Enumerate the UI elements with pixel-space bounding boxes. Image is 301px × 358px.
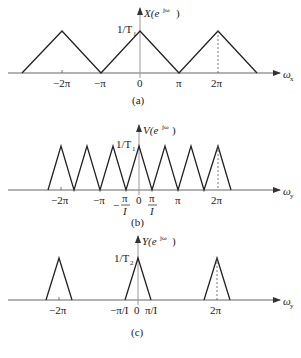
panel-c: Y(e jω ) 1/T 2 ω y −2π −π/I 0 π/I 2π (c) — [8, 234, 294, 339]
tick-label: 2π — [211, 77, 223, 89]
panel-b: V(e jω ) 1/T 1 ω y −2π −π − π I 0 π I π … — [8, 123, 294, 229]
tick-label-minus-pi-over-I: − π I — [113, 192, 130, 217]
svg-text:): ) — [172, 124, 176, 137]
svg-text:π: π — [122, 192, 128, 204]
tick-label: −π/I 0 π/I — [110, 304, 158, 316]
svg-text:x: x — [290, 75, 294, 83]
tick-label: −2π — [53, 77, 71, 89]
x-axis-label: ω y — [283, 295, 294, 310]
svg-text:y: y — [290, 192, 294, 200]
sampling-rate-spectra-diagram: X(e jω ) 1/T 1 ω x −2π −π 0 π 2π (a) V(e… — [0, 0, 301, 358]
svg-text:X(e: X(e — [143, 7, 159, 20]
tick-label: 0 — [136, 194, 142, 206]
svg-text:Y(e: Y(e — [142, 235, 157, 248]
y-axis-label: X(e jω ) — [143, 6, 180, 20]
tick-label: 0 — [137, 77, 143, 89]
svg-text:1/T: 1/T — [114, 252, 130, 264]
svg-text:jω: jω — [162, 6, 170, 14]
tick-label: 2π — [210, 304, 222, 316]
panel-a: X(e jω ) 1/T 1 ω x −2π −π 0 π 2π (a) — [8, 6, 294, 107]
tick-label-pi-over-I: π I — [148, 192, 157, 217]
tick-label: 2π — [211, 194, 223, 206]
svg-text:jω: jω — [159, 234, 167, 242]
y-axis-label: Y(e jω ) — [142, 234, 176, 248]
tick-label: −π — [93, 194, 105, 206]
svg-text:jω: jω — [161, 123, 169, 131]
peak-label: 1/T 2 — [114, 252, 134, 267]
tick-label: π — [176, 77, 182, 89]
tick-label: −2π — [49, 304, 67, 316]
tick-label: −π — [94, 77, 106, 89]
tick-label: −2π — [51, 194, 69, 206]
caption: (c) — [131, 326, 144, 339]
spectrum-y-m2pi — [46, 258, 72, 300]
svg-text:−: − — [113, 199, 119, 211]
svg-text:): ) — [172, 235, 176, 248]
svg-text:1: 1 — [132, 145, 136, 153]
x-axis-label: ω x — [283, 68, 294, 83]
svg-text:1/T: 1/T — [116, 138, 132, 150]
svg-text:y: y — [290, 302, 294, 310]
peak-label: 1/T 1 — [117, 23, 137, 38]
y-axis-label: V(e jω ) — [143, 123, 176, 137]
svg-text:1/T: 1/T — [117, 23, 133, 35]
x-axis-label: ω y — [283, 185, 294, 200]
peak-label: 1/T 1 — [116, 138, 136, 153]
svg-text:I: I — [122, 205, 128, 217]
svg-text:V(e: V(e — [143, 124, 158, 137]
svg-text:π: π — [149, 192, 155, 204]
svg-text:1: 1 — [133, 30, 137, 38]
svg-text:I: I — [149, 205, 155, 217]
svg-text:): ) — [176, 7, 180, 20]
caption: (a) — [132, 94, 145, 107]
svg-text:2: 2 — [130, 259, 134, 267]
tick-label: π — [175, 194, 181, 206]
caption: (b) — [131, 216, 144, 229]
